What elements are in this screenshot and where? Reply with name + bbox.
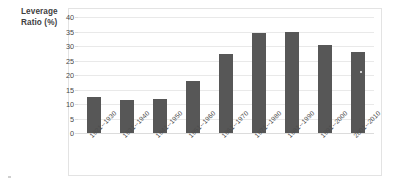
- x-axis-labels: 1921--19301931--19401941--19501951--1960…: [78, 134, 374, 178]
- y-axis-tick-label: 0: [60, 129, 74, 138]
- y-axis-tick-label: 30: [60, 42, 74, 51]
- bar: [252, 33, 266, 133]
- y-axis-tick-label: 10: [60, 100, 74, 109]
- y-axis-tick-label: 20: [60, 71, 74, 80]
- bar: [318, 45, 332, 133]
- scan-speck: [8, 176, 11, 178]
- y-axis-tick-label: 40: [60, 13, 74, 22]
- y-axis-tick-label: 5: [60, 114, 74, 123]
- bar-series: [78, 17, 374, 133]
- y-axis-tick-label: 35: [60, 27, 74, 36]
- y-axis-tick-label: 25: [60, 56, 74, 65]
- plot-area: 4035302520151050: [78, 17, 374, 133]
- bar: [351, 52, 365, 133]
- leverage-ratio-bar-chart: Leverage Ratio (%) 4035302520151050 1921…: [0, 0, 404, 183]
- bar: [219, 54, 233, 133]
- y-axis-tick-label: 15: [60, 85, 74, 94]
- bar: [285, 32, 299, 133]
- scan-speck: [360, 71, 362, 73]
